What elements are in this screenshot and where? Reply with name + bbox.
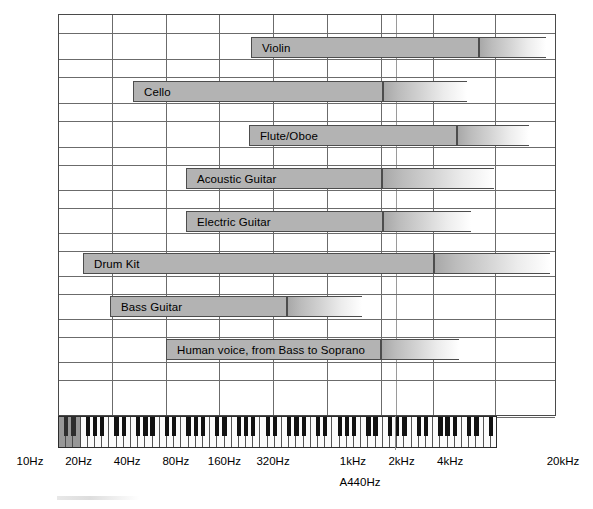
fundamental-range-segment: Bass Guitar xyxy=(110,296,287,317)
piano-black-key xyxy=(266,417,270,436)
piano-black-key xyxy=(114,417,118,436)
a440-label: A440Hz xyxy=(340,476,381,488)
bottom-artifact xyxy=(57,496,139,500)
piano-black-key xyxy=(273,417,277,436)
frequency-range-chart: ViolinCelloFlute/OboeAcoustic GuitarElec… xyxy=(0,0,593,509)
fundamental-range-segment: Cello xyxy=(133,81,383,102)
harmonic-fade-segment xyxy=(479,37,546,58)
harmonic-fade-segment xyxy=(383,81,467,102)
horizontal-gridline xyxy=(59,147,555,148)
fundamental-range-segment: Drum Kit xyxy=(83,253,434,274)
piano-black-key xyxy=(136,417,140,436)
horizontal-gridline xyxy=(59,59,555,60)
piano-black-key xyxy=(215,417,219,436)
piano-black-key xyxy=(201,417,205,436)
plot-frame: ViolinCelloFlute/OboeAcoustic GuitarElec… xyxy=(58,14,556,416)
piano-black-key xyxy=(366,417,370,436)
piano-black-key xyxy=(186,417,190,436)
piano-black-key xyxy=(237,417,241,436)
fundamental-range-segment: Human voice, from Bass to Soprano xyxy=(166,339,381,360)
instrument-bar: Cello xyxy=(133,81,467,102)
horizontal-gridline xyxy=(59,337,555,338)
piano-black-key xyxy=(388,417,392,436)
fundamental-range-segment: Electric Guitar xyxy=(186,211,383,232)
piano-black-key xyxy=(150,417,154,436)
x-axis-tick-label: 2kHz xyxy=(388,455,414,467)
piano-black-key xyxy=(402,417,406,436)
horizontal-gridline xyxy=(59,276,555,277)
a440-tick xyxy=(395,416,396,450)
piano-black-key xyxy=(71,417,75,436)
vertical-gridline xyxy=(495,15,496,415)
piano-black-key xyxy=(294,417,298,436)
piano-black-key xyxy=(373,417,377,436)
harmonic-fade-segment xyxy=(434,253,550,274)
instrument-bar: Acoustic Guitar xyxy=(186,168,494,189)
horizontal-gridline xyxy=(59,121,555,122)
piano-black-key xyxy=(251,417,255,436)
horizontal-gridline xyxy=(59,77,555,78)
horizontal-gridline xyxy=(59,319,555,320)
harmonic-fade-segment xyxy=(381,339,459,360)
instrument-bar: Human voice, from Bass to Soprano xyxy=(166,339,459,360)
instrument-bar: Flute/Oboe xyxy=(249,125,529,146)
bar-label: Flute/Oboe xyxy=(250,130,318,142)
horizontal-gridline xyxy=(59,294,555,295)
instrument-bar: Violin xyxy=(251,37,546,58)
x-axis-tick-label: 160Hz xyxy=(208,455,241,467)
bar-label: Electric Guitar xyxy=(187,216,271,228)
harmonic-fade-segment xyxy=(287,296,362,317)
horizontal-gridline xyxy=(59,380,555,381)
piano-black-key xyxy=(287,417,291,436)
x-axis-tick-label: 10Hz xyxy=(17,455,44,467)
piano-black-key xyxy=(489,417,493,436)
horizontal-gridline xyxy=(59,251,555,252)
piano-black-key xyxy=(467,417,471,436)
harmonic-fade-segment xyxy=(382,168,494,189)
fundamental-range-segment: Flute/Oboe xyxy=(249,125,457,146)
harmonic-fade-segment xyxy=(457,125,529,146)
horizontal-gridline xyxy=(59,233,555,234)
x-axis-tick-label: 40Hz xyxy=(114,455,141,467)
piano-black-key xyxy=(100,417,104,436)
piano-black-key xyxy=(438,417,442,436)
instrument-bar: Electric Guitar xyxy=(186,211,471,232)
harmonic-fade-segment xyxy=(383,211,471,232)
piano-black-key xyxy=(316,417,320,436)
piano-black-key xyxy=(417,417,421,436)
horizontal-gridline xyxy=(59,33,555,34)
piano-black-key xyxy=(445,417,449,436)
horizontal-gridline xyxy=(59,190,555,191)
piano-black-key xyxy=(338,417,342,436)
horizontal-gridline xyxy=(59,165,555,166)
piano-black-key xyxy=(165,417,169,436)
vertical-gridline xyxy=(112,15,113,415)
piano-black-key xyxy=(352,417,356,436)
x-axis-tick-label: 80Hz xyxy=(162,455,189,467)
horizontal-gridline xyxy=(59,208,555,209)
piano-black-key xyxy=(194,417,198,436)
fundamental-range-segment: Acoustic Guitar xyxy=(186,168,382,189)
piano-black-key xyxy=(122,417,126,436)
piano-black-key xyxy=(453,417,457,436)
piano-black-key xyxy=(86,417,90,436)
fundamental-range-segment: Violin xyxy=(251,37,479,58)
bar-label: Human voice, from Bass to Soprano xyxy=(167,344,365,356)
piano-black-key xyxy=(93,417,97,436)
horizontal-gridline xyxy=(59,103,555,104)
horizontal-gridline xyxy=(59,362,555,363)
x-axis-tick-label: 4kHz xyxy=(437,455,463,467)
bar-label: Violin xyxy=(252,42,291,54)
bar-label: Acoustic Guitar xyxy=(187,173,276,185)
instrument-bar: Drum Kit xyxy=(83,253,550,274)
x-axis-tick-label: 20kHz xyxy=(547,455,580,467)
piano-black-key xyxy=(143,417,147,436)
piano-keyboard xyxy=(58,416,497,448)
piano-black-key xyxy=(172,417,176,436)
bar-label: Cello xyxy=(134,86,171,98)
piano-black-key xyxy=(424,417,428,436)
x-axis-tick-label: 20Hz xyxy=(65,455,92,467)
piano-black-key xyxy=(302,417,306,436)
piano-black-key xyxy=(345,417,349,436)
x-axis-tick-label: 1kHz xyxy=(340,455,366,467)
